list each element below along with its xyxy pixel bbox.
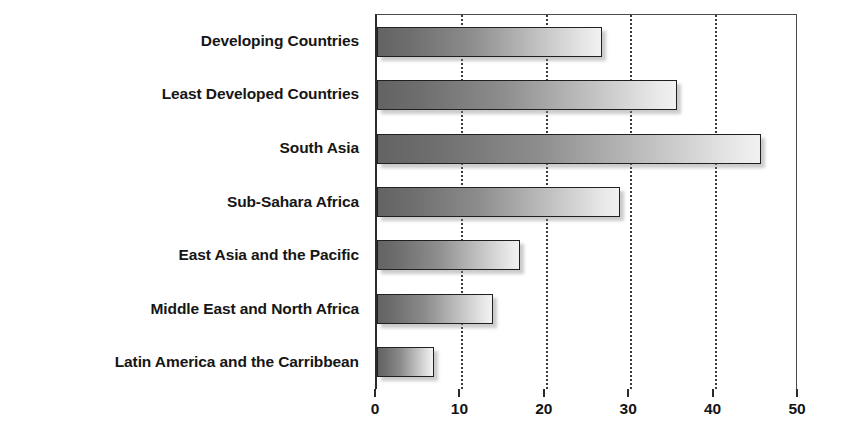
bar-row — [377, 15, 796, 68]
bar-1[interactable] — [377, 80, 677, 110]
category-label: Middle East and North Africa — [151, 300, 360, 318]
bars-layer — [377, 15, 796, 389]
x-tick-label-30: 30 — [620, 400, 637, 418]
category-label: Least Developed Countries — [162, 85, 359, 103]
bar-row — [377, 68, 796, 121]
x-tick-20 — [543, 389, 545, 397]
bar-chart: Developing Countries Least Developed Cou… — [0, 0, 853, 443]
category-row: Latin America and the Carribbean — [0, 335, 367, 389]
category-label: South Asia — [280, 139, 359, 157]
bar-row — [377, 122, 796, 175]
category-axis-labels: Developing Countries Least Developed Cou… — [0, 14, 367, 389]
category-label: Developing Countries — [201, 32, 359, 50]
x-tick-label-50: 50 — [788, 400, 805, 418]
bar-2[interactable] — [377, 134, 761, 164]
bar-6[interactable] — [377, 347, 434, 377]
bar-row — [377, 336, 796, 389]
x-tick-label-10: 10 — [451, 400, 468, 418]
category-row: South Asia — [0, 121, 367, 175]
bar-5[interactable] — [377, 294, 493, 324]
category-row: Sub-Sahara Africa — [0, 175, 367, 229]
bar-0[interactable] — [377, 27, 602, 57]
plot-area — [375, 14, 797, 389]
bar-3[interactable] — [377, 187, 620, 217]
x-tick-10 — [458, 389, 460, 397]
x-tick-0 — [374, 389, 376, 397]
x-tick-50 — [796, 389, 798, 397]
category-row: Least Developed Countries — [0, 68, 367, 122]
x-tick-label-0: 0 — [371, 400, 380, 418]
x-tick-label-40: 40 — [704, 400, 721, 418]
x-tick-30 — [627, 389, 629, 397]
bar-row — [377, 282, 796, 335]
category-label: East Asia and the Pacific — [179, 246, 359, 264]
x-tick-label-20: 20 — [535, 400, 552, 418]
bar-row — [377, 229, 796, 282]
category-label: Sub-Sahara Africa — [227, 193, 359, 211]
category-label: Latin America and the Carribbean — [115, 353, 359, 371]
x-axis: 01020304050 — [375, 389, 797, 443]
x-tick-40 — [712, 389, 714, 397]
bar-row — [377, 175, 796, 228]
category-row: Developing Countries — [0, 14, 367, 68]
category-row: Middle East and North Africa — [0, 282, 367, 336]
category-row: East Asia and the Pacific — [0, 228, 367, 282]
bar-4[interactable] — [377, 240, 520, 270]
